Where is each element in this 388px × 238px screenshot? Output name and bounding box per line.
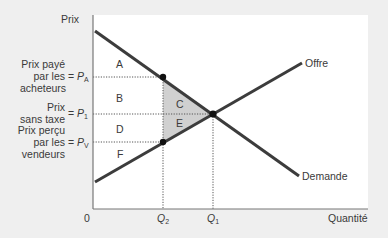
p1-description: Prix sans taxe (20, 101, 65, 125)
x-axis-title: Quantité (328, 212, 368, 224)
buyer-price-point (160, 74, 166, 80)
pv-label: = PV (68, 136, 89, 152)
demand-label: Demande (302, 170, 348, 182)
equilibrium-point (209, 110, 216, 117)
y-axis-title: Prix (61, 13, 79, 25)
region-d-label: D (116, 123, 124, 135)
region-f-label: F (117, 148, 123, 160)
p1-label: = P1 (68, 107, 88, 123)
region-e-label: E (176, 117, 183, 129)
origin-label: 0 (84, 212, 90, 224)
seller-price-point (160, 139, 166, 145)
supply-curve (95, 63, 302, 182)
pa-description: Prix payé par les acheteurs (20, 58, 65, 94)
region-b-label: B (116, 92, 123, 104)
region-c-label: C (176, 98, 184, 110)
demand-curve (95, 31, 299, 176)
pa-label: = PA (68, 70, 89, 86)
pv-description: Prix perçu par les vendeurs (10, 124, 65, 160)
q2-label: Q2 (157, 212, 169, 228)
supply-label: Offre (305, 57, 328, 69)
q1-label: Q1 (207, 212, 219, 228)
region-a-label: A (116, 58, 123, 70)
